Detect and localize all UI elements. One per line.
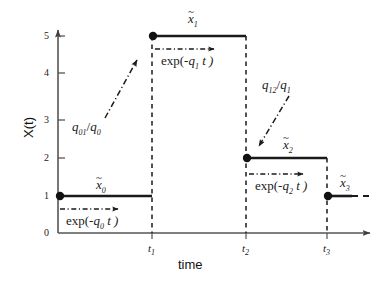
holding-time-label-1: exp(-q1 t ) [161, 54, 213, 71]
t2-sub: 2 [245, 248, 249, 257]
x-axis-title: time [178, 258, 203, 271]
marker-x0 [56, 192, 64, 200]
q01-denom-sub: 0 [97, 128, 101, 137]
y-tick-label-4: 4 [44, 68, 49, 78]
y-axis-title: X(t) [21, 98, 36, 158]
transition-prob-label-12: q12/q1 [262, 78, 291, 95]
x-tick-label-t3: t3 [323, 243, 330, 257]
x0-sub: 0 [102, 186, 106, 195]
q12-numer-sub: 12 [269, 86, 277, 95]
transition-arrows [105, 60, 289, 146]
holding-time-label-0: exp(-q0 t ) [66, 214, 118, 231]
marker-x1 [149, 32, 157, 40]
marker-x3 [324, 192, 332, 200]
q-sub-0: 0 [100, 222, 104, 231]
x2-tilde-group: ~x [283, 138, 289, 151]
x2-sub: 2 [289, 146, 293, 155]
x0-tilde: ~ [96, 172, 102, 183]
state-label-x3: ~x3 [340, 176, 350, 193]
holding-time-label-2: exp(-q2 t ) [255, 179, 307, 196]
exp-open-1: exp(- [161, 53, 188, 68]
exp-open-2: exp(- [255, 178, 282, 193]
x-axis [58, 233, 370, 239]
figure-container: 5 4 3 2 1 0 X(t) t1 t2 t3 time ~x0 ~x1 ~… [0, 0, 383, 285]
y-tick-label-3: 3 [44, 115, 49, 125]
y-tick-label-5: 5 [44, 31, 49, 41]
q-sub-2: 2 [289, 187, 293, 196]
exp-open-0: exp(- [66, 213, 93, 228]
y-tick-label-1: 1 [44, 191, 49, 201]
x1-tilde-group: ~x [188, 12, 194, 25]
x2-tilde: ~ [283, 132, 289, 143]
exp-close-1: t ) [202, 53, 213, 68]
y-tick-label-0: 0 [44, 228, 49, 238]
y-axis [58, 30, 65, 233]
x-tick-label-t1: t1 [148, 243, 155, 257]
transition-arrow-01 [105, 60, 137, 118]
q01-numer-sub: 01 [79, 128, 87, 137]
x3-sub: 3 [346, 184, 350, 193]
t3-sub: 3 [326, 248, 330, 257]
transition-prob-label-01: q01/q0 [72, 120, 101, 137]
exp-close-0: t ) [107, 213, 118, 228]
state-label-x0: ~x0 [96, 178, 106, 195]
y-tick-label-2: 2 [44, 153, 49, 163]
exp-close-2: t ) [296, 178, 307, 193]
x-tick-label-t2: t2 [242, 243, 249, 257]
q-sub-1: 1 [195, 62, 199, 71]
x3-tilde: ~ [340, 170, 346, 181]
marker-x2 [243, 154, 251, 162]
x1-tilde: ~ [188, 6, 194, 17]
x0-tilde-group: ~x [96, 178, 102, 191]
state-label-x1: ~x1 [188, 12, 198, 29]
state-label-x2: ~x2 [283, 138, 293, 155]
t1-sub: 1 [151, 248, 155, 257]
q12-denom-sub: 1 [287, 86, 291, 95]
x3-tilde-group: ~x [340, 176, 346, 189]
x1-sub: 1 [194, 20, 198, 29]
